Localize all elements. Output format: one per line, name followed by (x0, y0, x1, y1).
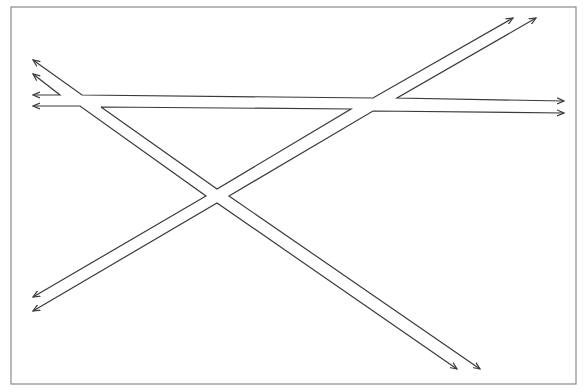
path-upper-right-horizontal (397, 18, 564, 101)
path-bottom-diagonal (33, 203, 457, 369)
path-left-short-loop (33, 74, 60, 95)
path-left-lower-horizontal-to-diagonal (33, 106, 206, 297)
diagram-frame (11, 7, 576, 384)
path-right-lower-horizontal (229, 111, 564, 369)
diagram-canvas (0, 0, 588, 392)
path-upper-left-to-upper-horizontal (33, 18, 513, 98)
road-network (33, 18, 564, 369)
